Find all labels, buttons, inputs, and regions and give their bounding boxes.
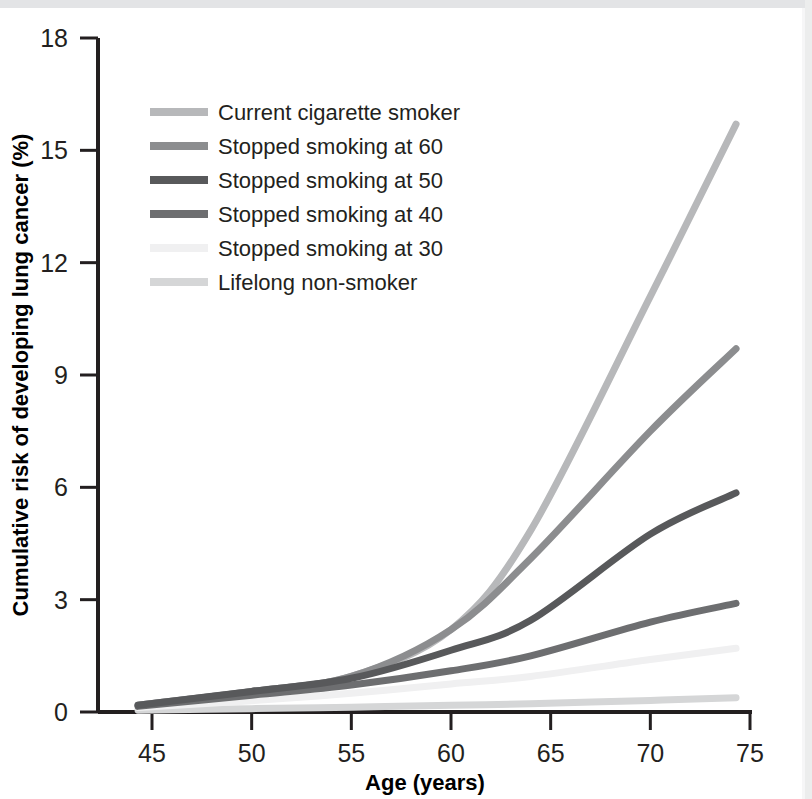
y-axis-title: Cumulative risk of developing lung cance… (8, 134, 33, 617)
figure-canvas: 0369121518 45505560657075 Age (years) Cu… (0, 0, 812, 799)
y-axis-tick-label: 3 (54, 586, 68, 614)
x-axis-tick-label: 45 (138, 739, 166, 767)
y-axis-tick-label: 12 (40, 249, 68, 277)
x-axis-tick-labels: 45505560657075 (138, 739, 764, 767)
x-axis-tick-label: 70 (636, 739, 664, 767)
x-axis-tick-label: 65 (537, 739, 565, 767)
x-axis-ticks (152, 712, 750, 730)
legend-label: Current cigarette smoker (218, 100, 460, 125)
y-axis-tick-labels: 0369121518 (40, 24, 68, 726)
line-chart: 0369121518 45505560657075 Age (years) Cu… (0, 0, 812, 799)
y-axis-tick-label: 6 (54, 473, 68, 501)
y-axis-tick-label: 0 (54, 698, 68, 726)
chart-legend: Current cigarette smokerStopped smoking … (150, 100, 460, 295)
legend-label: Lifelong non-smoker (218, 270, 417, 295)
legend-label: Stopped smoking at 30 (218, 236, 443, 261)
y-axis-ticks (80, 38, 98, 712)
y-axis-tick-label: 15 (40, 136, 68, 164)
y-axis-tick-label: 18 (40, 24, 68, 52)
legend-label: Stopped smoking at 60 (218, 134, 443, 159)
x-axis-tick-label: 55 (337, 739, 365, 767)
y-axis-tick-label: 9 (54, 361, 68, 389)
x-axis-tick-label: 60 (437, 739, 465, 767)
x-axis-tick-label: 50 (238, 739, 266, 767)
x-axis-tick-label: 75 (736, 739, 764, 767)
legend-label: Stopped smoking at 50 (218, 168, 443, 193)
x-axis-title: Age (years) (365, 770, 485, 795)
legend-label: Stopped smoking at 40 (218, 202, 443, 227)
